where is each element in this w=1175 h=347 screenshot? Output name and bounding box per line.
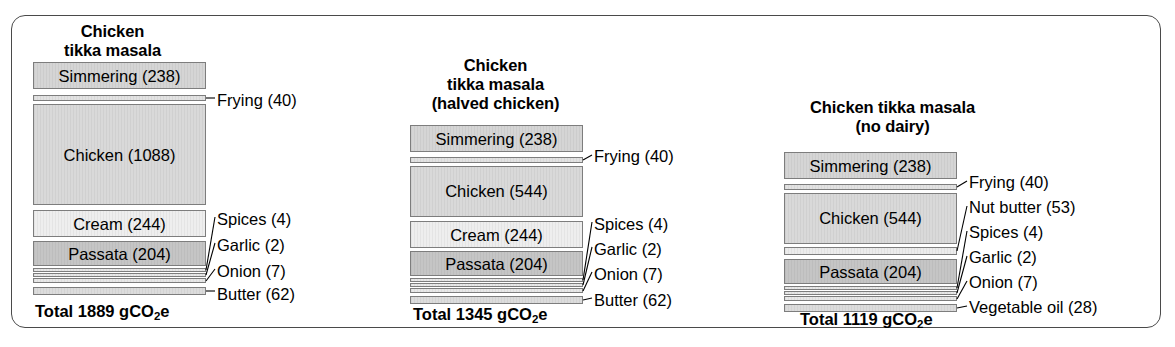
segment-butter	[410, 296, 583, 304]
panel-1-total-sub: 2	[154, 310, 160, 322]
segment-frying	[410, 157, 583, 163]
panel-2-total-text: Total 1345 gCO	[413, 305, 532, 323]
segment-frying	[784, 184, 957, 190]
segment-spices	[784, 286, 957, 290]
panel-1-total-suffix: e	[160, 302, 169, 320]
callout-frying: Frying (40)	[594, 148, 674, 165]
segment-garlic	[784, 291, 957, 295]
callout-frying: Frying (40)	[217, 92, 297, 109]
panel-2-total: Total 1345 gCO2e	[413, 305, 548, 324]
callout-spices: Spices (4)	[969, 224, 1043, 241]
callout-frying: Frying (40)	[969, 174, 1049, 191]
segment-label-chicken: Chicken (544)	[410, 183, 583, 200]
panel-3-total: Total 1119 gCO2e	[800, 310, 933, 329]
segment-onion	[410, 288, 583, 293]
callout-nut-butter: Nut butter (53)	[969, 199, 1075, 216]
callout-spices: Spices (4)	[217, 211, 291, 228]
panel-3-title: Chicken tikka masala (no dairy)	[770, 98, 1015, 136]
callout-spices: Spices (4)	[594, 216, 668, 233]
segment-butter	[33, 287, 206, 295]
segment-label-simmering: Simmering (238)	[784, 158, 957, 175]
panel-2-total-sub: 2	[532, 313, 538, 325]
segment-label-passata: Passata (204)	[33, 246, 206, 263]
panel-3-total-text: Total 1119 gCO	[800, 310, 917, 328]
segment-onion	[33, 278, 206, 283]
figure-root: Chicken tikka masala Simmering (238) Chi…	[0, 0, 1175, 347]
segment-label-passata: Passata (204)	[410, 256, 583, 273]
segment-label-passata: Passata (204)	[784, 264, 957, 281]
panel-3-total-suffix: e	[923, 310, 932, 328]
panel-2-title: Chicken tikka masala (halved chicken)	[398, 56, 593, 113]
panel-1-total-text: Total 1889 gCO	[35, 302, 154, 320]
panel-1-total: Total 1889 gCO2e	[35, 302, 170, 321]
callout-onion: Onion (7)	[594, 266, 663, 283]
segment-spices	[410, 278, 583, 282]
panel-2-total-suffix: e	[538, 305, 547, 323]
callout-vegetable-oil: Vegetable oil (28)	[969, 299, 1097, 316]
panel-1-title: Chicken tikka masala	[20, 22, 205, 60]
segment-frying	[33, 95, 206, 101]
segment-label-cream: Cream (244)	[410, 227, 583, 244]
callout-garlic: Garlic (2)	[594, 241, 662, 258]
callout-butter: Butter (62)	[217, 286, 295, 303]
segment-label-simmering: Simmering (238)	[33, 68, 206, 85]
callout-onion: Onion (7)	[217, 263, 286, 280]
callout-butter: Butter (62)	[594, 292, 672, 309]
segment-garlic	[410, 283, 583, 287]
callout-garlic: Garlic (2)	[217, 237, 285, 254]
segment-onion	[784, 296, 957, 301]
panel-3-total-sub: 2	[917, 318, 923, 330]
callout-garlic: Garlic (2)	[969, 249, 1037, 266]
segment-garlic	[33, 273, 206, 277]
segment-label-cream: Cream (244)	[33, 216, 206, 233]
segment-label-chicken: Chicken (544)	[784, 210, 957, 227]
segment-spices	[33, 268, 206, 272]
segment-label-chicken: Chicken (1088)	[33, 147, 206, 164]
segment-nut-butter	[784, 247, 957, 255]
segment-label-simmering: Simmering (238)	[410, 131, 583, 148]
callout-onion: Onion (7)	[969, 274, 1038, 291]
